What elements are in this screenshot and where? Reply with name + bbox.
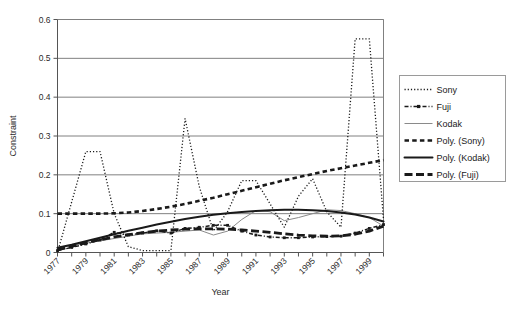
- series-marker: [127, 234, 130, 237]
- x-tick-label: 1987: [183, 256, 204, 277]
- series-marker: [297, 236, 300, 239]
- series-marker: [368, 227, 371, 230]
- series-marker: [354, 232, 357, 235]
- x-tick-labels: 1977197919811983198519871989199119931995…: [41, 256, 373, 277]
- x-tick-label: 1977: [41, 256, 62, 277]
- legend-label: Fuji: [437, 102, 452, 112]
- y-tick-label: 0.3: [39, 131, 51, 141]
- x-axis-title: Year: [211, 287, 229, 297]
- series-marker: [382, 223, 385, 226]
- y-tick-labels: 00.10.20.30.40.50.6: [39, 15, 51, 258]
- series-marker: [226, 224, 229, 227]
- legend-label: Poly. (Sony): [437, 136, 485, 146]
- series-marker: [198, 226, 201, 229]
- series-marker: [240, 230, 243, 233]
- series-marker: [255, 234, 258, 237]
- legend: SonyFujiKodakPoly. (Sony)Poly. (Kodak)Po…: [400, 76, 506, 182]
- x-tick-label: 1989: [212, 256, 233, 277]
- series-marker: [325, 235, 328, 238]
- series-marker: [99, 239, 102, 242]
- series-marker: [84, 243, 87, 246]
- series-marker: [184, 227, 187, 230]
- x-tick-label: 1995: [297, 256, 318, 277]
- legend-label: Poly. (Fuji): [437, 170, 479, 180]
- y-tick-label: 0.1: [39, 209, 51, 219]
- x-tick-label: 1993: [268, 256, 289, 277]
- x-tick-label: 1999: [353, 256, 374, 277]
- x-tick-label: 1997: [325, 256, 346, 277]
- chart-svg: 00.10.20.30.40.50.6 19771979198119831985…: [0, 0, 513, 311]
- legend-label: Poly. (Kodak): [437, 153, 490, 163]
- x-tick-label: 1985: [155, 256, 176, 277]
- legend-marker: [417, 105, 420, 108]
- series-marker: [169, 232, 172, 235]
- x-tick-label: 1991: [240, 256, 261, 277]
- legend-label: Kodak: [437, 119, 463, 129]
- series-marker: [113, 231, 116, 234]
- y-axis-title: Constraint: [8, 115, 18, 157]
- series-marker: [141, 232, 144, 235]
- y-tick-label: 0.6: [39, 15, 51, 25]
- series-line-sony: [58, 39, 384, 253]
- x-tick-label: 1979: [70, 256, 91, 277]
- series-marker: [340, 235, 343, 238]
- y-tick-label: 0.4: [39, 92, 51, 102]
- y-tick-label: 0: [46, 248, 51, 258]
- series-line-poly-sony: [58, 160, 384, 214]
- chart-container: 00.10.20.30.40.50.6 19771979198119831985…: [0, 0, 513, 311]
- series-marker: [283, 236, 286, 239]
- y-tick-label: 0.2: [39, 170, 51, 180]
- series-marker: [155, 229, 158, 232]
- data-series: [56, 39, 385, 253]
- x-tick-label: 1983: [127, 256, 148, 277]
- series-line-poly-fuji: [58, 226, 384, 250]
- series-marker: [269, 236, 272, 239]
- series-marker: [70, 246, 73, 249]
- gridlines: [58, 20, 384, 214]
- y-tick-label: 0.5: [39, 53, 51, 63]
- axis-ticks: [54, 20, 384, 257]
- legend-label: Sony: [437, 85, 458, 95]
- x-tick-label: 1981: [98, 256, 119, 277]
- series-marker: [311, 236, 314, 239]
